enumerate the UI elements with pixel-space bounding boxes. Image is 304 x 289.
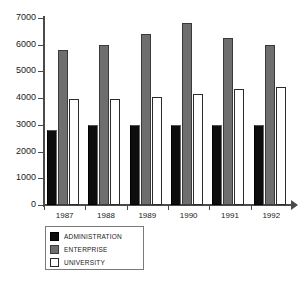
legend-item-enterprise: ENTERPRISE (50, 243, 139, 255)
bar-group (212, 18, 244, 205)
bar-enterprise (223, 38, 233, 205)
bar-university (276, 87, 286, 205)
bar-administration (88, 125, 98, 205)
x-axis-tick-label: 1992 (249, 211, 293, 220)
legend-label-enterprise: ENTERPRISE (64, 246, 108, 253)
y-axis-tick-label: 0 (0, 200, 36, 209)
legend-item-administration: ADMINISTRATION (50, 230, 139, 242)
bar-university (110, 99, 120, 205)
x-axis-tick-label: 1988 (84, 211, 128, 220)
legend-swatch-enterprise (50, 245, 59, 254)
y-axis-tick (38, 98, 43, 99)
bar-university (193, 94, 203, 205)
bar-administration (130, 125, 140, 205)
y-axis-tick (38, 178, 43, 179)
x-axis-tick (44, 206, 45, 210)
y-axis-tick (38, 71, 43, 72)
y-axis-tick (38, 205, 43, 206)
bar-administration (254, 125, 264, 205)
plot-area (44, 18, 292, 205)
bar-chart: 01000200030004000500060007000 1987198819… (0, 0, 304, 289)
x-axis-tick (168, 206, 169, 210)
x-axis-tick (209, 206, 210, 210)
y-axis-tick (38, 152, 43, 153)
y-axis-tick-label: 6000 (0, 40, 36, 49)
y-axis-tick-label: 4000 (0, 93, 36, 102)
bar-group (171, 18, 203, 205)
bar-enterprise (182, 23, 192, 205)
y-axis-tick (38, 18, 43, 19)
y-axis-tick (38, 125, 43, 126)
bar-university (234, 89, 244, 205)
legend-swatch-administration (50, 232, 59, 241)
bar-enterprise (265, 45, 275, 205)
y-axis-tick-label: 5000 (0, 66, 36, 75)
legend-label-administration: ADMINISTRATION (64, 233, 122, 240)
x-axis-tick (85, 206, 86, 210)
x-axis-tick-label: 1989 (125, 211, 169, 220)
y-axis-tick-label: 7000 (0, 13, 36, 22)
bar-university (69, 99, 79, 205)
bar-administration (47, 130, 57, 205)
x-axis-arrow-icon (291, 200, 298, 210)
bar-administration (212, 125, 222, 205)
bar-university (152, 97, 162, 205)
bar-enterprise (58, 50, 68, 205)
bar-group (88, 18, 120, 205)
y-axis-tick-label: 3000 (0, 120, 36, 129)
bar-group (130, 18, 162, 205)
y-axis-tick (38, 45, 43, 46)
bar-group (254, 18, 286, 205)
x-axis-tick (127, 206, 128, 210)
x-axis-tick-label: 1991 (208, 211, 252, 220)
bar-administration (171, 125, 181, 205)
x-axis-tick (251, 206, 252, 210)
x-axis-tick-label: 1987 (43, 211, 87, 220)
bar-enterprise (99, 45, 109, 205)
bar-group (47, 18, 79, 205)
y-axis-tick-label: 1000 (0, 173, 36, 182)
legend-label-university: UNIVERSITY (64, 259, 105, 266)
y-axis-tick-label: 2000 (0, 147, 36, 156)
legend-swatch-university (50, 258, 59, 267)
x-axis-tick-label: 1990 (167, 211, 211, 220)
legend-item-university: UNIVERSITY (50, 256, 139, 268)
bar-enterprise (141, 34, 151, 205)
chart-legend: ADMINISTRATION ENTERPRISE UNIVERSITY (45, 226, 144, 270)
